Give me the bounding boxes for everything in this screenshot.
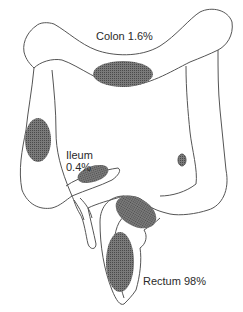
ileum-label: Ileum: [66, 149, 93, 161]
ileum-percent-label: 0.4%: [66, 161, 91, 173]
colon-label: Colon 1.6%: [96, 30, 153, 42]
ascending-lesion: [25, 118, 51, 162]
colon-diagram: [0, 0, 243, 312]
colon-lesion: [93, 61, 153, 87]
sigmoid-lesion: [110, 189, 162, 235]
descending-small-lesion: [178, 154, 186, 166]
rectum-label: Rectum 98%: [143, 275, 206, 287]
rectum-lesion: [106, 232, 134, 292]
